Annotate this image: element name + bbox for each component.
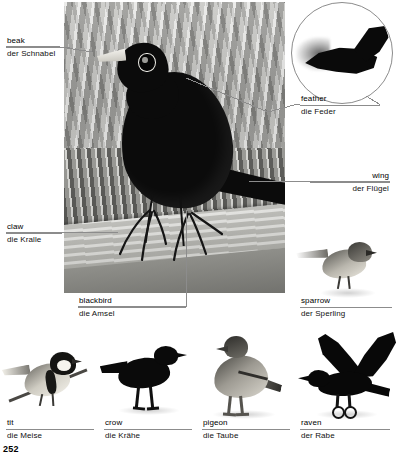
caption-blackbird: blackbird die Amsel [78, 296, 186, 319]
pigeon-beak [216, 346, 228, 352]
species-pigeon-art [198, 330, 292, 416]
caption-tit-de: die Meise [6, 430, 94, 441]
species-crow-art [100, 338, 194, 414]
caption-blackbird-en: blackbird [78, 296, 186, 307]
callout-wing-de: der Flügel [310, 183, 390, 194]
blackbird-photo [64, 2, 285, 293]
caption-sparrow: sparrow der Sperling [300, 296, 392, 319]
species-sparrow-art [296, 236, 392, 296]
dictionary-page: beak der Schnabel claw die Kralle feathe… [0, 0, 396, 457]
crow-beak [172, 352, 187, 359]
caption-raven-en: raven [300, 418, 390, 429]
species-tit-art [2, 338, 96, 410]
caption-raven: raven der Rabe [300, 418, 390, 441]
callout-beak-en: beak [6, 36, 70, 47]
pigeon-leg-right [239, 396, 243, 414]
callout-beak-de: der Schnabel [6, 48, 70, 59]
caption-crow-de: die Krähe [104, 430, 192, 441]
caption-pigeon-en: pigeon [202, 418, 290, 429]
blackbird-claws [64, 2, 285, 293]
callout-feather-de: die Feder [300, 106, 380, 117]
feather-closeup-inset [291, 2, 393, 104]
caption-tit: tit die Meise [6, 418, 94, 441]
caption-crow: crow die Krähe [104, 418, 192, 441]
sparrow-tail [296, 249, 329, 260]
caption-raven-de: der Rabe [300, 430, 390, 441]
caption-sparrow-de: der Sperling [300, 308, 392, 319]
callout-claw-de: die Kralle [6, 234, 62, 245]
tit-cheek-patch [57, 360, 71, 371]
species-raven-art [296, 332, 394, 416]
page-number: 252 [3, 444, 19, 454]
callout-claw: claw die Kralle [6, 222, 62, 245]
caption-sparrow-en: sparrow [300, 296, 392, 307]
caption-pigeon: pigeon die Taube [202, 418, 290, 441]
sparrow-leg-right [347, 276, 350, 289]
tit-beak [72, 359, 82, 364]
crow-leg-left [135, 386, 140, 408]
caption-tit-en: tit [6, 418, 94, 429]
tit-leg-right [52, 394, 55, 406]
callout-beak: beak der Schnabel [6, 36, 70, 59]
caption-blackbird-de: die Amsel [78, 308, 186, 319]
raven-beak [298, 375, 312, 382]
caption-pigeon-de: die Taube [202, 430, 290, 441]
caption-crow-en: crow [104, 418, 192, 429]
crow-leg-right [149, 386, 154, 408]
callout-claw-en: claw [6, 222, 62, 233]
callout-feather: feather die Feder [300, 94, 380, 117]
callout-wing-en: wing [310, 171, 390, 182]
callout-wing: wing der Flügel [310, 171, 390, 194]
callout-feather-en: feather [300, 94, 380, 105]
